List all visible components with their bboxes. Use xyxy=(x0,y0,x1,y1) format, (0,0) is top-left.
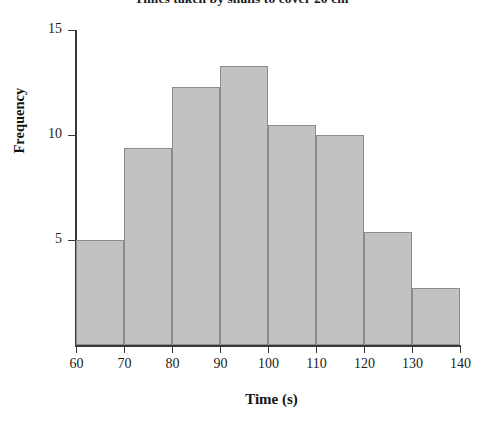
y-axis-title: Frequency xyxy=(6,132,32,149)
histogram-bar xyxy=(364,232,412,345)
x-axis-tick: 60 xyxy=(76,345,77,353)
x-axis-tick: 120 xyxy=(364,345,365,353)
histogram-bar xyxy=(220,66,268,345)
y-axis-tick-label: 15 xyxy=(48,21,62,37)
histogram-bar xyxy=(76,240,124,345)
x-axis-title: Time (s) xyxy=(0,391,483,408)
histogram-bar xyxy=(316,135,364,345)
x-axis-tick-label: 80 xyxy=(166,356,180,372)
histogram-bar xyxy=(124,148,172,345)
chart-title: Times taken by snails to cover 20 cm xyxy=(0,0,483,7)
y-axis-title-text: Frequency xyxy=(11,128,28,154)
x-axis-tick: 130 xyxy=(412,345,413,353)
x-axis-tick: 70 xyxy=(124,345,125,353)
histogram-bar xyxy=(268,125,316,346)
y-axis-tick-label: 10 xyxy=(48,126,62,142)
histogram-bar xyxy=(172,87,220,345)
x-axis-tick: 80 xyxy=(172,345,173,353)
x-axis-tick-label: 120 xyxy=(354,356,375,372)
x-axis-tick-label: 140 xyxy=(450,356,471,372)
y-axis-tick: 15 xyxy=(68,30,76,31)
y-axis-tick: 10 xyxy=(68,135,76,136)
x-axis-tick-label: 60 xyxy=(70,356,84,372)
x-axis-tick: 110 xyxy=(316,345,317,353)
y-axis-tick: 5 xyxy=(68,240,76,241)
plot-area: 51015 60708090100110120130140 xyxy=(76,30,460,345)
y-axis-tick-label: 5 xyxy=(55,231,62,247)
x-axis-tick-label: 90 xyxy=(214,356,228,372)
chart-page: Times taken by snails to cover 20 cm Fre… xyxy=(0,0,483,422)
x-axis-tick-label: 70 xyxy=(118,356,132,372)
x-axis-tick: 90 xyxy=(220,345,221,353)
histogram-bar xyxy=(412,288,460,345)
x-axis-tick-label: 110 xyxy=(306,356,326,372)
x-axis-tick: 100 xyxy=(268,345,269,353)
x-axis-tick-label: 100 xyxy=(258,356,279,372)
x-axis-tick: 140 xyxy=(460,345,461,353)
x-axis-tick-label: 130 xyxy=(402,356,423,372)
